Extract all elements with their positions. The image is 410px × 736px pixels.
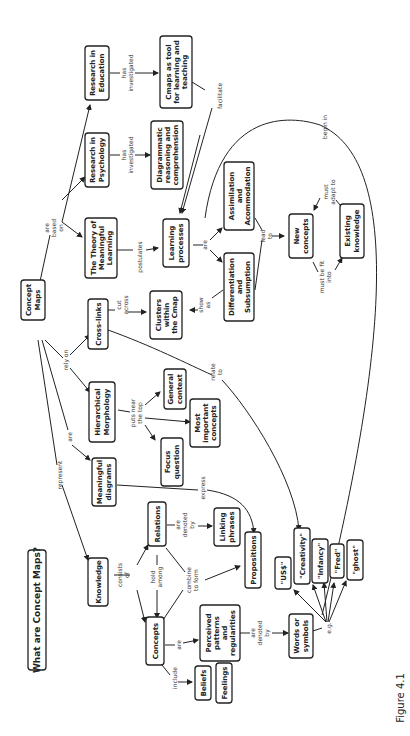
- link-are-learning-processes: are: [201, 240, 208, 250]
- svg-text:for learning and: for learning and: [173, 40, 181, 104]
- svg-text:combine: combine: [185, 567, 192, 593]
- svg-text:to: to: [266, 233, 273, 239]
- concept-map-diagram: Concept Maps Research in Education Resea…: [0, 0, 410, 736]
- svg-text:Feelings: Feelings: [221, 667, 229, 700]
- svg-text:Propositions: Propositions: [250, 535, 258, 584]
- svg-text:Research in: Research in: [89, 50, 97, 96]
- svg-text:processes: processes: [177, 223, 185, 262]
- node-concept-maps: Concept Maps: [21, 280, 45, 320]
- node-new-concepts: New concepts: [289, 214, 313, 258]
- svg-text:patterns: patterns: [213, 616, 221, 650]
- svg-text:on: on: [57, 224, 64, 232]
- svg-text:Relations: Relations: [154, 506, 162, 543]
- link-are-based-on: are based on: [43, 219, 64, 237]
- node-meaningful-diagrams: Meaningful diagrams: [92, 458, 116, 506]
- svg-text:based: based: [50, 219, 57, 237]
- link-combine-to-form: combine to form: [185, 567, 199, 593]
- svg-text:are: are: [175, 640, 182, 650]
- svg-text:investigated: investigated: [127, 54, 135, 91]
- svg-text:"Creativity": "Creativity": [299, 533, 307, 579]
- node-cross-links: Cross-links: [88, 299, 108, 349]
- node-perceived-patterns: Perceived patterns and regularities: [200, 605, 240, 661]
- svg-text:and: and: [236, 189, 244, 204]
- svg-text:express: express: [199, 476, 207, 499]
- node-general-context: General context: [164, 369, 186, 409]
- svg-text:consists: consists: [116, 563, 123, 587]
- svg-text:symbols: symbols: [302, 620, 310, 652]
- node-example-fred: "Fred": [330, 544, 344, 578]
- node-concepts: Concepts: [146, 617, 164, 665]
- svg-text:are: are: [249, 628, 256, 638]
- link-lead-to: lead to: [259, 229, 273, 242]
- link-facilitate: facilitate: [216, 83, 223, 109]
- svg-text:are: are: [201, 240, 208, 250]
- link-are-denoted-by-relations: are denoted by: [174, 512, 196, 537]
- svg-text:postulates: postulates: [136, 241, 144, 272]
- svg-text:Knowledge: Knowledge: [95, 560, 103, 604]
- svg-text:are: are: [66, 432, 73, 442]
- svg-text:cut: cut: [115, 300, 122, 310]
- link-relate-to: relate to: [209, 363, 223, 381]
- svg-text:Subsumption: Subsumption: [244, 261, 252, 313]
- node-learning-processes: Learning processes: [163, 219, 189, 267]
- svg-text:Psychology: Psychology: [98, 137, 106, 182]
- svg-text:lead: lead: [259, 229, 266, 242]
- svg-text:phrases: phrases: [228, 511, 236, 542]
- svg-text:within: within: [163, 303, 171, 328]
- svg-text:diagrams: diagrams: [105, 464, 113, 501]
- link-has-investigated-psychology: has investigated: [120, 136, 135, 173]
- svg-text:denoted: denoted: [256, 620, 263, 645]
- svg-text:"US$": "US$": [280, 562, 288, 585]
- svg-text:Perceived: Perceived: [205, 614, 213, 653]
- svg-text:has: has: [120, 68, 127, 79]
- svg-text:Learning: Learning: [168, 226, 176, 261]
- svg-text:the top: the top: [136, 402, 144, 424]
- link-include: include: [171, 667, 178, 689]
- node-example-ghost: "ghost": [347, 540, 363, 580]
- link-express: express: [199, 476, 207, 499]
- svg-text:What are Concept Maps?: What are Concept Maps?: [32, 547, 42, 673]
- svg-text:Existing: Existing: [344, 215, 352, 247]
- svg-text:as: as: [204, 302, 211, 309]
- svg-text:of: of: [123, 571, 130, 578]
- svg-text:Morphology: Morphology: [103, 388, 111, 435]
- node-research-psychology: Research in Psychology: [85, 133, 109, 187]
- svg-text:Meaningful: Meaningful: [98, 226, 106, 270]
- node-linking-phrases: Linking phrases: [214, 508, 240, 546]
- svg-text:include: include: [171, 667, 178, 689]
- svg-text:and: and: [221, 626, 229, 641]
- svg-text:Meaningful: Meaningful: [96, 460, 104, 504]
- svg-text:Cross-links: Cross-links: [95, 302, 103, 345]
- svg-text:knowledge: knowledge: [353, 209, 361, 252]
- link-cut-across: cut across: [115, 295, 129, 314]
- node-relations: Relations: [148, 502, 166, 546]
- node-focus-question: Focus question: [161, 438, 183, 486]
- node-existing-knowledge: Existing knowledge: [340, 204, 364, 258]
- svg-text:regularities: regularities: [229, 610, 237, 656]
- svg-text:Words or: Words or: [293, 618, 301, 654]
- svg-text:to: to: [216, 369, 223, 375]
- svg-text:concepts: concepts: [210, 405, 218, 440]
- svg-text:Concept: Concept: [25, 283, 33, 316]
- node-example-us-dollar: "US$": [275, 557, 291, 589]
- node-assimilation-accommodation: Assimilation and Acommodation: [224, 162, 254, 230]
- svg-text:represent: represent: [56, 460, 64, 489]
- link-begin-in: begin in: [321, 115, 329, 139]
- svg-text:Linking: Linking: [219, 513, 227, 542]
- svg-text:Most: Most: [194, 413, 202, 433]
- node-example-creativity: "Creativity": [294, 528, 310, 584]
- svg-text:by: by: [263, 629, 271, 637]
- figure-label: Figure 4.1: [395, 673, 406, 723]
- svg-text:General: General: [167, 374, 175, 405]
- svg-text:adapt to: adapt to: [329, 179, 337, 205]
- node-research-education: Research in Education: [85, 46, 109, 100]
- link-are-meaningful-diagrams: are: [66, 432, 73, 442]
- svg-text:must: must: [322, 184, 329, 200]
- node-cmaps-tool: Cmaps as tool for learning and teaching: [160, 36, 192, 108]
- svg-text:across: across: [122, 295, 129, 314]
- svg-text:Learning: Learning: [106, 231, 114, 266]
- svg-text:teaching: teaching: [181, 55, 189, 89]
- link-has-investigated-education: has investigated: [120, 54, 135, 91]
- svg-text:Beliefs: Beliefs: [200, 670, 208, 697]
- node-clusters: Clusters within the Cmap: [150, 291, 182, 339]
